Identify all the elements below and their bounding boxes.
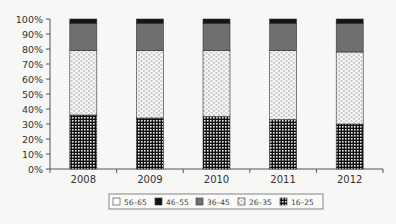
legend-label: 46–55: [166, 198, 189, 207]
bar-segment-36–45: [203, 24, 230, 51]
legend-label: 26–35: [249, 198, 272, 207]
bar-2009: [136, 19, 163, 169]
bar-segment-16–25: [136, 118, 163, 169]
y-tick-label: 70%: [22, 59, 43, 70]
bars-group: [70, 19, 363, 169]
bar-segment-26–35: [136, 51, 163, 119]
bar-segment-26–35: [70, 51, 97, 116]
bar-segment-36–45: [336, 24, 363, 53]
y-tick-label: 60%: [22, 74, 43, 85]
bar-segment-26–35: [336, 52, 363, 124]
bar-2012: [336, 19, 363, 169]
y-tick-label: 100%: [16, 14, 43, 25]
legend-swatch-16–25: [280, 198, 287, 205]
bar-segment-36–45: [136, 24, 163, 51]
bar-2010: [203, 19, 230, 169]
y-tick-label: 0%: [28, 164, 43, 175]
bar-segment-16–25: [270, 120, 297, 170]
y-tick-label: 30%: [22, 119, 43, 130]
y-tick-label: 40%: [22, 104, 43, 115]
y-axis: 0%10%20%30%40%50%60%70%80%90%100%: [16, 14, 50, 175]
legend-label: 56–65: [124, 198, 147, 207]
bar-segment-16–25: [70, 115, 97, 169]
stacked-bar-chart: 0%10%20%30%40%50%60%70%80%90%100% 200820…: [0, 0, 396, 224]
x-tick-label: 2012: [337, 174, 362, 185]
bar-segment-46–55: [270, 19, 297, 24]
bar-segment-16–25: [203, 117, 230, 170]
bar-segment-46–55: [136, 19, 163, 24]
legend-swatch-56–65: [113, 198, 120, 205]
y-tick-label: 10%: [22, 149, 43, 160]
y-tick-label: 20%: [22, 134, 43, 145]
legend-swatch-46–55: [155, 198, 162, 205]
legend-label: 16–25: [291, 198, 314, 207]
y-tick-label: 90%: [22, 29, 43, 40]
y-tick-label: 80%: [22, 44, 43, 55]
bar-segment-46–55: [336, 19, 363, 24]
x-tick-label: 2009: [137, 174, 162, 185]
x-axis: 20082009201020112012: [50, 169, 383, 185]
bar-segment-46–55: [203, 19, 230, 24]
bar-2008: [70, 19, 97, 169]
bar-segment-46–55: [70, 19, 97, 24]
y-tick-label: 50%: [22, 89, 43, 100]
bar-segment-26–35: [270, 51, 297, 120]
x-tick-label: 2011: [270, 174, 295, 185]
bar-segment-16–25: [336, 124, 363, 169]
legend: 56–6546–5536–4526–3516–25: [109, 194, 323, 209]
legend-swatch-36–45: [196, 198, 203, 205]
bar-segment-36–45: [270, 24, 297, 51]
legend-swatch-26–35: [238, 198, 245, 205]
bar-segment-36–45: [70, 24, 97, 51]
x-tick-label: 2010: [204, 174, 229, 185]
x-tick-label: 2008: [71, 174, 96, 185]
legend-label: 36–45: [207, 198, 230, 207]
bar-2011: [270, 19, 297, 169]
bar-segment-26–35: [203, 51, 230, 117]
